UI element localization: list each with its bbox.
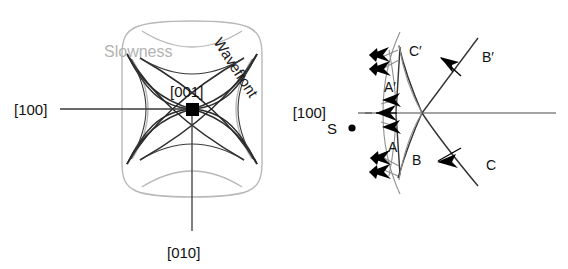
- center-marker-001: [186, 103, 199, 116]
- label-axis-100-left: [100]: [14, 101, 47, 118]
- label-branch-B-prime: B′: [482, 49, 494, 65]
- label-branch-A: A: [388, 139, 398, 155]
- left-panel: [100] [010] [001] Slowness Wavefront: [14, 21, 262, 261]
- figure-canvas: [100] [010] [001] Slowness Wavefront: [0, 0, 568, 269]
- label-branch-C: C: [486, 157, 496, 173]
- branch-echo-lower: [399, 113, 422, 180]
- arrow-axis-main: [376, 105, 397, 121]
- label-axis-001: [001]: [170, 83, 203, 100]
- label-branch-A-prime: A′: [384, 79, 396, 95]
- label-axis-100-right: [100]: [293, 104, 326, 121]
- source-point-marker: [348, 124, 355, 131]
- branch-segment-A: [396, 47, 400, 175]
- label-branch-B: B: [412, 152, 421, 168]
- label-branch-C-prime: C′: [409, 43, 422, 59]
- branch-line-C: [422, 113, 478, 186]
- arrow-mid-lower: [382, 120, 401, 134]
- figure-root: [100] [010] [001] Slowness Wavefront: [0, 0, 568, 269]
- label-source-S: S: [327, 120, 337, 137]
- label-slowness: Slowness: [104, 43, 172, 60]
- branch-line-B-prime: [422, 38, 478, 113]
- right-panel: [100] S A A′ B B′ C C′: [293, 32, 556, 194]
- arrow-mid-upper: [382, 93, 401, 107]
- arrow-B-prime: [440, 57, 461, 76]
- label-wavefront: Wavefront: [210, 34, 262, 101]
- label-axis-010: [010]: [167, 244, 200, 261]
